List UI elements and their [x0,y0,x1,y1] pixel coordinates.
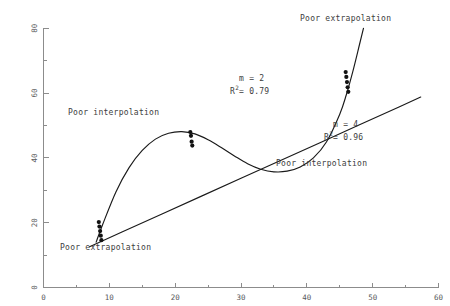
y-tick-label: 60 [30,88,39,98]
fit-label-m4-degree: m = 4 [316,120,363,130]
data-point-middle [188,130,192,134]
x-tick-label: 50 [368,293,378,302]
y-tick-label: 20 [30,218,39,228]
x-tick-label: 40 [302,293,312,302]
fitted-curves-layer [90,28,421,246]
data-point-middle [190,143,194,147]
data-point-right [344,70,348,74]
annotation-poor-interpolation-right: Poor interpolation [276,159,367,169]
data-point-right [345,80,349,84]
x-tick-label: 60 [434,293,444,302]
x-axis-major-ticks [44,283,439,288]
data-point-left [98,229,102,233]
fit-label-m4: m = 4 R2= 0.96 [316,120,363,143]
x-tick-label: 10 [105,293,115,302]
y-axis-major-ticks [44,28,49,287]
x-tick-label: 20 [171,293,181,302]
annotation-poor-extrapolation-top: Poor extrapolation [300,14,391,24]
data-point-right [344,75,348,79]
data-point-middle [189,134,193,138]
y-tick-label: 40 [30,153,39,163]
y-axis-tick-labels: 0 20 40 60 80 [30,23,39,289]
chart-figure: 0 10 20 30 40 50 60 0 20 40 60 80 Poor e… [0,0,450,306]
data-point-middle [190,140,194,144]
y-tick-label: 0 [30,285,39,290]
data-point-right [346,85,350,89]
annotation-poor-extrapolation-bottom: Poor extrapolation [60,243,151,253]
plot-canvas: 0 10 20 30 40 50 60 0 20 40 60 80 [0,0,450,306]
fit-curve-m2 [90,97,421,247]
data-point-left [97,224,101,228]
data-point-right [346,90,350,94]
fit-label-m4-r2: R2= 0.96 [316,130,363,143]
fit-label-m2: m = 2 R2= 0.79 [222,74,269,97]
data-point-left [97,220,101,224]
fit-label-m2-degree: m = 2 [222,74,269,84]
x-tick-label: 30 [236,293,246,302]
x-tick-label: 0 [41,293,46,302]
data-point-left [99,238,103,242]
annotation-poor-interpolation-left: Poor interpolation [68,108,159,118]
data-point-left [99,234,103,238]
fit-label-m2-r2: R2= 0.79 [222,84,269,97]
y-tick-label: 80 [30,23,39,33]
x-axis-tick-labels: 0 10 20 30 40 50 60 [41,293,443,302]
